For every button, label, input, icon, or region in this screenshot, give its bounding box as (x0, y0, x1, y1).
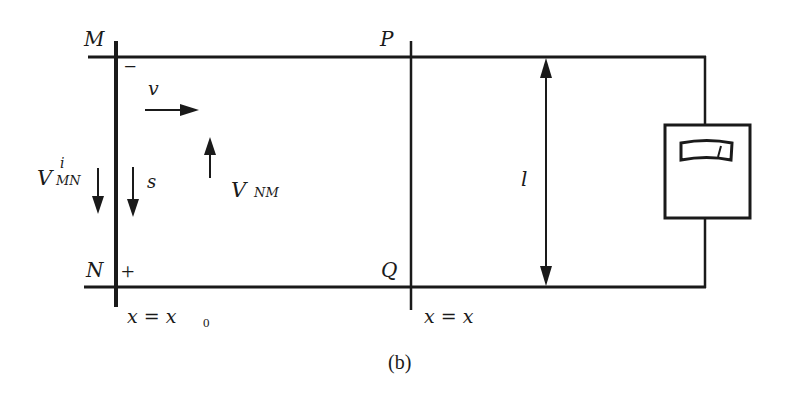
label-v: v (148, 77, 159, 99)
label-n: N (85, 258, 105, 282)
label-v-nm-sub: NM (253, 185, 279, 200)
circuit-diagram: M − N + P Q v s l V i MN V NM x = x 0 x … (0, 0, 793, 394)
label-x0-subscript: 0 (203, 315, 210, 330)
sign-plus: + (121, 258, 135, 284)
label-m: M (83, 27, 105, 51)
label-v-mn-sub: MN (55, 173, 81, 188)
label-p: P (379, 27, 394, 51)
label-v-nm: V (231, 178, 248, 202)
velocity-arrow (145, 104, 199, 116)
length-arrow (540, 58, 552, 286)
label-v-mn-sup: i (60, 155, 64, 171)
v-nm-arrow (204, 137, 216, 178)
v-mn-arrow (92, 168, 104, 214)
label-x-eq-x0: x = x (127, 305, 177, 327)
figure-caption: (b) (388, 351, 411, 374)
label-s: s (147, 171, 156, 192)
sign-minus: − (124, 54, 136, 79)
label-v-mn: V (37, 166, 54, 190)
label-q: Q (381, 258, 397, 282)
s-arrow (127, 167, 139, 217)
label-l: l (521, 167, 527, 191)
label-x-eq-x: x = x (424, 305, 474, 327)
voltmeter-icon (665, 125, 750, 218)
